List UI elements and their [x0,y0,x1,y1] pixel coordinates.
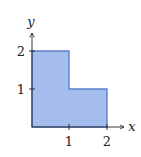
region-diagram: 1 2 1 2 x y [0,0,141,157]
y-tick-label-1: 1 [17,82,25,97]
x-tick-label-1: 1 [65,134,73,149]
x-tick-label-2: 2 [103,134,111,149]
y-axis-label: y [26,14,35,29]
l-shaped-region [32,51,107,127]
y-tick-label-2: 2 [17,44,25,59]
x-axis-label: x [128,119,136,134]
